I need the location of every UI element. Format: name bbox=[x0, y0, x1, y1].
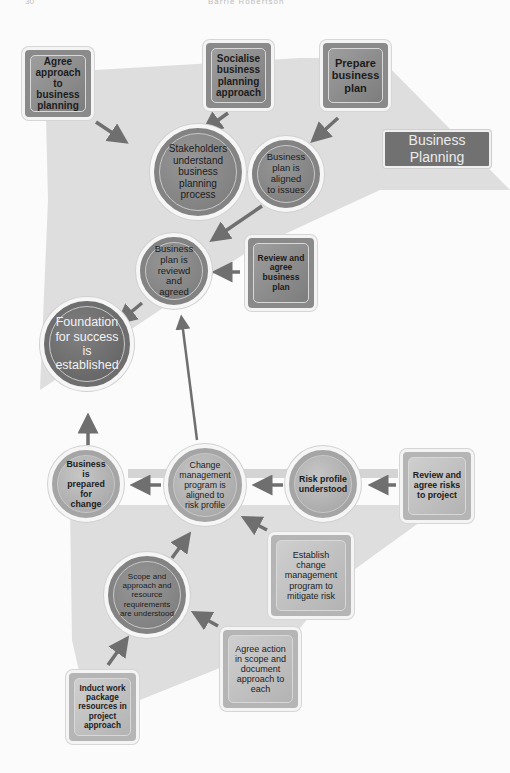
node-label: Business is prepared for change bbox=[57, 455, 115, 513]
node-review-risks[interactable]: Review and agree risks to project bbox=[400, 449, 474, 523]
node-agree-approach[interactable]: Agree approach to business planning bbox=[22, 47, 94, 120]
node-label: Establish change management program to m… bbox=[276, 540, 346, 611]
node-induct[interactable]: Induct work package resources in project… bbox=[66, 670, 139, 744]
node-label: Induct work package resources in project… bbox=[74, 678, 131, 736]
node-stakeholders[interactable]: Stakeholders understand business plannin… bbox=[150, 124, 246, 220]
node-foundation[interactable]: Foundation for success is established bbox=[40, 297, 134, 391]
node-change-program[interactable]: Change management program is aligned to … bbox=[164, 444, 246, 526]
node-label: Change management program is aligned to … bbox=[173, 453, 237, 517]
node-socialise[interactable]: Socialise business planning approach bbox=[203, 40, 274, 111]
node-label: Prepare business plan bbox=[328, 48, 383, 103]
node-plan-aligned[interactable]: Business plan is aligned to issues bbox=[248, 136, 324, 212]
node-review-plan[interactable]: Review and agree business plan bbox=[245, 235, 317, 311]
node-establish-change[interactable]: Establish change management program to m… bbox=[268, 532, 354, 619]
node-label: Agree action in scope and document appro… bbox=[228, 635, 293, 703]
node-business-prepared[interactable]: Business is prepared for change bbox=[48, 446, 124, 522]
node-label: Business plan is reviewd and agreed bbox=[145, 242, 203, 300]
node-agree-action[interactable]: Agree action in scope and document appro… bbox=[220, 627, 301, 711]
node-label: Risk profile understood bbox=[294, 455, 352, 513]
node-risk-profile[interactable]: Risk profile understood bbox=[285, 446, 361, 522]
node-label: Foundation for success is established bbox=[49, 306, 125, 382]
business-planning-label: Business Planning bbox=[383, 130, 491, 168]
node-scope[interactable]: Scope and approach and resource requirem… bbox=[104, 552, 190, 638]
node-plan-reviewed[interactable]: Business plan is reviewd and agreed bbox=[136, 233, 212, 309]
node-label: Socialise business planning approach bbox=[211, 48, 266, 103]
node-label: Scope and approach and resource requirem… bbox=[113, 561, 181, 629]
node-prepare-plan[interactable]: Prepare business plan bbox=[320, 40, 391, 111]
node-label: Business plan is aligned to issues bbox=[257, 145, 315, 203]
node-label: Review and agree business plan bbox=[253, 243, 309, 303]
arrow-change-to-reviewed bbox=[182, 322, 197, 440]
node-label: Stakeholders understand business plannin… bbox=[159, 133, 237, 211]
node-label: Review and agree risks to project bbox=[408, 457, 466, 515]
node-label: Agree approach to business planning bbox=[30, 55, 86, 112]
